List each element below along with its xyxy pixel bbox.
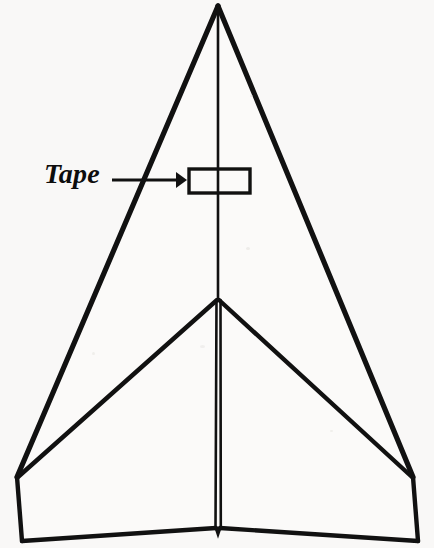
airplane-diagram — [0, 0, 434, 548]
fuselage-keel-left — [216, 300, 217, 529]
paper-airplane-figure: Tape — [0, 0, 434, 548]
tape-label: Tape — [44, 160, 100, 188]
